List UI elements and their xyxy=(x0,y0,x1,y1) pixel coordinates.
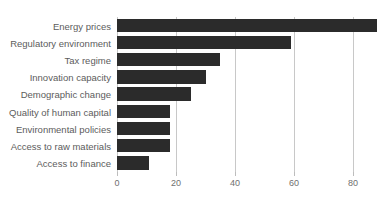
bar-1 xyxy=(117,36,291,49)
x-tick-label-20: 20 xyxy=(156,178,196,189)
category-label-4: Demographic change xyxy=(21,89,111,100)
bar-3 xyxy=(117,70,206,83)
category-label-2: Tax regime xyxy=(65,54,111,65)
bar-6 xyxy=(117,122,170,135)
bar-row: Access to finance xyxy=(117,155,383,172)
category-label-7: Access to raw materials xyxy=(11,140,111,151)
bar-4 xyxy=(117,87,191,100)
bar-5 xyxy=(117,105,170,118)
chart-title xyxy=(14,0,314,3)
x-tick-60 xyxy=(294,172,295,176)
category-label-0: Energy prices xyxy=(53,20,111,31)
x-tick-80 xyxy=(353,172,354,176)
x-tick-0 xyxy=(117,172,118,176)
category-label-3: Innovation capacity xyxy=(30,72,111,83)
x-tick-label-80: 80 xyxy=(333,178,373,189)
bar-0 xyxy=(117,19,377,32)
x-tick-label-60: 60 xyxy=(274,178,314,189)
category-label-6: Environmental policies xyxy=(16,123,111,134)
bar-row: Demographic change xyxy=(117,86,383,103)
category-label-5: Quality of human capital xyxy=(9,106,111,117)
x-tick-label-0: 0 xyxy=(97,178,137,189)
bar-row: Access to raw materials xyxy=(117,137,383,154)
bar-row: Innovation capacity xyxy=(117,69,383,86)
bar-row: Environmental policies xyxy=(117,120,383,137)
bar-8 xyxy=(117,156,149,169)
category-label-8: Access to finance xyxy=(37,158,111,169)
x-tick-20 xyxy=(176,172,177,176)
bar-row: Quality of human capital xyxy=(117,103,383,120)
x-tick-label-40: 40 xyxy=(215,178,255,189)
category-label-1: Regulatory environment xyxy=(10,37,111,48)
bar-2 xyxy=(117,53,220,66)
bar-7 xyxy=(117,139,170,152)
bar-row: Tax regime xyxy=(117,51,383,68)
bar-row: Energy prices xyxy=(117,17,383,34)
bar-row: Regulatory environment xyxy=(117,34,383,51)
bar-chart: 020406080 Energy pricesRegulatory enviro… xyxy=(0,0,383,201)
x-tick-40 xyxy=(235,172,236,176)
